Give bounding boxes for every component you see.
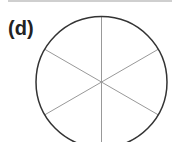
circle-diagram: [0, 0, 172, 142]
spokes: [45, 17, 158, 143]
